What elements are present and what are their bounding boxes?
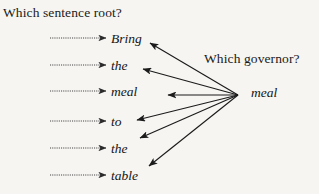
sentence-token-the-1: the	[111, 59, 128, 73]
sentence-token-bring: Bring	[111, 32, 142, 46]
dependency-diagram: Which sentence root? Which governor? Bri…	[0, 0, 319, 194]
question-sentence-root: Which sentence root?	[3, 6, 122, 20]
governor-arrow-to-the	[143, 69, 238, 95]
question-governor: Which governor?	[204, 52, 300, 66]
sentence-token-to: to	[111, 115, 122, 129]
sentence-token-meal: meal	[111, 85, 137, 99]
sentence-token-table: table	[111, 169, 138, 183]
sentence-token-the-2: the	[111, 142, 128, 156]
dotted-arrow-group	[50, 38, 106, 175]
governor-token-meal: meal	[251, 86, 277, 100]
governor-arrow-to-the	[140, 95, 238, 138]
